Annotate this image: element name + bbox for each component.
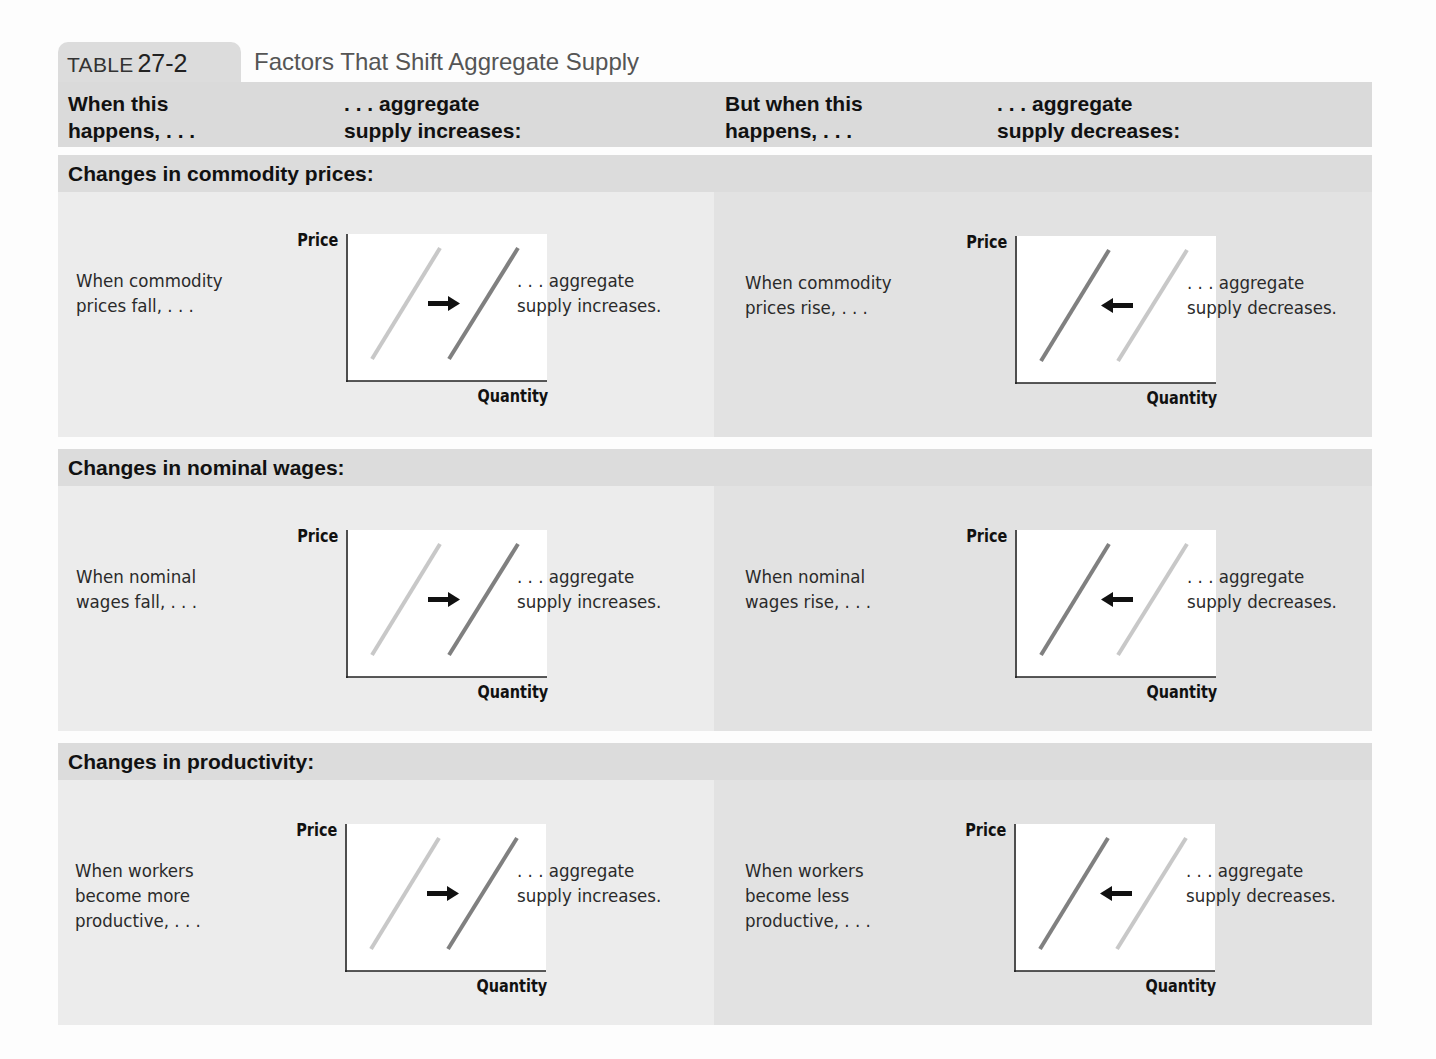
- cause-text: When workers become more productive, . .…: [75, 858, 201, 933]
- table-number-tab: TABLE27-2: [58, 42, 241, 84]
- column-header-row: When this happens, . . . . . . aggregate…: [58, 82, 1372, 147]
- x-axis-label: Quantity: [477, 386, 548, 406]
- cause-text: When nominal wages rise, . . .: [745, 564, 871, 614]
- section-title: Changes in nominal wages:: [58, 449, 1372, 486]
- column-header-cause-decrease: But when this happens, . . .: [725, 90, 863, 144]
- supply-shift-left-chart: PriceQuantity: [887, 224, 1147, 414]
- table-number: 27-2: [137, 49, 187, 77]
- supply-diagram: [945, 530, 1225, 680]
- table-title: Factors That Shift Aggregate Supply: [254, 48, 639, 76]
- increase-panel: When nominal wages fall, . . . PriceQuan…: [58, 486, 714, 731]
- table-label: TABLE: [67, 53, 133, 76]
- supply-shift-left-chart: PriceQuantity: [886, 812, 1146, 1002]
- decrease-panel: When nominal wages rise, . . . PriceQuan…: [714, 486, 1372, 731]
- effect-text: . . . aggregate supply increases.: [517, 268, 661, 318]
- cause-text: When commodity prices fall, . . .: [76, 268, 223, 318]
- effect-text: . . . aggregate supply increases.: [517, 564, 661, 614]
- decrease-panel: When workers become less productive, . .…: [714, 780, 1372, 1025]
- supply-diagram: [944, 824, 1224, 974]
- increase-panel: When commodity prices fall, . . . PriceQ…: [58, 192, 714, 437]
- y-axis-label: Price: [297, 526, 338, 546]
- supply-shift-right-chart: PriceQuantity: [218, 518, 478, 708]
- effect-text: . . . aggregate supply increases.: [517, 858, 661, 908]
- cause-text: When nominal wages fall, . . .: [76, 564, 197, 614]
- section-commodity-prices: Changes in commodity prices: When commod…: [58, 155, 1372, 437]
- effect-text: . . . aggregate supply decreases.: [1187, 564, 1337, 614]
- x-axis-label: Quantity: [477, 682, 548, 702]
- cause-text: When commodity prices rise, . . .: [745, 270, 892, 320]
- decrease-panel: When commodity prices rise, . . . PriceQ…: [714, 192, 1372, 437]
- supply-diagram: [945, 236, 1225, 386]
- effect-text: . . . aggregate supply decreases.: [1186, 858, 1336, 908]
- supply-shift-right-chart: PriceQuantity: [218, 222, 478, 412]
- supply-diagram: [275, 824, 555, 974]
- effect-text: . . . aggregate supply decreases.: [1187, 270, 1337, 320]
- section-title: Changes in commodity prices:: [58, 155, 1372, 192]
- cause-text: When workers become less productive, . .…: [745, 858, 871, 933]
- y-axis-label: Price: [966, 526, 1007, 546]
- supply-diagram: [276, 530, 556, 680]
- y-axis-label: Price: [297, 230, 338, 250]
- column-header-cause-increase: When this happens, . . .: [68, 90, 195, 144]
- supply-diagram: [276, 234, 556, 384]
- y-axis-label: Price: [966, 232, 1007, 252]
- supply-shift-left-chart: PriceQuantity: [887, 518, 1147, 708]
- x-axis-label: Quantity: [1146, 388, 1217, 408]
- section-productivity: Changes in productivity: When workers be…: [58, 743, 1372, 1025]
- section-title: Changes in productivity:: [58, 743, 1372, 780]
- column-header-decrease: . . . aggregate supply decreases:: [997, 90, 1180, 144]
- y-axis-label: Price: [296, 820, 337, 840]
- supply-shift-right-chart: PriceQuantity: [217, 812, 477, 1002]
- section-nominal-wages: Changes in nominal wages: When nominal w…: [58, 449, 1372, 731]
- increase-panel: When workers become more productive, . .…: [58, 780, 714, 1025]
- y-axis-label: Price: [965, 820, 1006, 840]
- x-axis-label: Quantity: [1145, 976, 1216, 996]
- x-axis-label: Quantity: [1146, 682, 1217, 702]
- column-header-increase: . . . aggregate supply increases:: [344, 90, 521, 144]
- x-axis-label: Quantity: [476, 976, 547, 996]
